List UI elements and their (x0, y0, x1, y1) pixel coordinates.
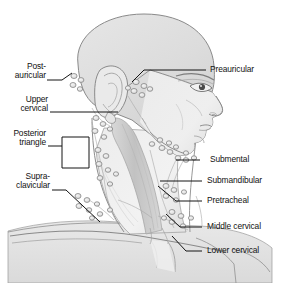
label-preauricular: Preauricular (210, 65, 254, 74)
label-posterior-triangle-line2: triangle (0, 138, 46, 147)
label-post-auricular: Post- auricular (2, 62, 46, 81)
label-supra-clavicular: Supra- clavicular (0, 172, 50, 191)
label-submental: Submental (210, 155, 249, 164)
label-supra-clavicular-line2: clavicular (0, 181, 50, 190)
leader-post-auricular (47, 73, 72, 80)
label-pretracheal: Pretracheal (207, 196, 249, 205)
label-upper-cervical: Upper cervical (2, 95, 48, 114)
label-middle-cervical: Middle cervical (207, 222, 261, 231)
label-lower-cervical: Lower cervical (207, 246, 259, 255)
label-posterior-triangle: Posterior triangle (0, 129, 46, 148)
label-post-auricular-line2: auricular (2, 71, 46, 80)
lymph-node-anatomy-figure: Post- auricular Upper cervical Posterior… (0, 0, 281, 283)
label-upper-cervical-line2: cervical (2, 104, 48, 113)
leader-posterior-triangle (48, 137, 89, 168)
label-submandibular: Submandibular (207, 176, 262, 185)
head-profile (78, 14, 223, 156)
